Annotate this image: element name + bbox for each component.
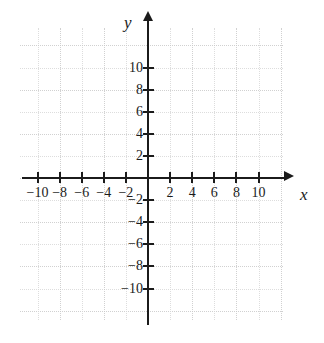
y-axis-line	[147, 14, 149, 325]
x-axis-tick-label: −10	[27, 186, 49, 200]
y-axis-tick-label: 8	[136, 83, 143, 97]
x-axis-tick-label: −4	[96, 186, 111, 200]
x-axis-tick-label: 8	[233, 186, 240, 200]
grid-line-vertical	[281, 28, 282, 320]
x-axis-tick-label: −8	[52, 186, 67, 200]
x-axis-tick-label: 4	[189, 186, 196, 200]
x-axis-tick	[81, 172, 83, 183]
y-axis-label: y	[124, 14, 132, 31]
y-axis-tick-label: 2	[136, 149, 143, 163]
y-axis-tick	[143, 89, 154, 91]
coordinate-plane-figure: −10−8−6−4−2246810108642−2−4−6−8−10 y x	[0, 0, 324, 343]
y-axis-tick-label: −10	[121, 282, 143, 296]
y-axis-tick-label: 10	[129, 61, 143, 75]
y-axis-tick	[143, 221, 154, 223]
y-axis-tick-label: 6	[136, 105, 143, 119]
grid-line-horizontal	[20, 45, 283, 46]
y-axis-tick	[143, 67, 154, 69]
x-axis-tick-label: 6	[211, 186, 218, 200]
x-axis-tick	[191, 172, 193, 183]
y-axis-tick	[143, 243, 154, 245]
y-axis-arrow-icon	[143, 11, 153, 21]
x-axis-tick	[235, 172, 237, 183]
y-axis-tick	[143, 155, 154, 157]
y-axis-tick-label: −6	[128, 237, 143, 251]
x-axis-label: x	[300, 186, 308, 203]
x-axis-tick	[213, 172, 215, 183]
y-axis-tick	[143, 265, 154, 267]
x-axis-arrow-icon	[284, 171, 294, 181]
x-axis-tick	[125, 172, 127, 183]
x-axis-tick-label: 2	[167, 186, 174, 200]
y-axis-tick	[143, 111, 154, 113]
y-axis-tick-label: −4	[128, 215, 143, 229]
x-axis-tick-label: −6	[74, 186, 89, 200]
x-axis-tick	[258, 172, 260, 183]
y-axis-tick-label: −8	[128, 259, 143, 273]
x-axis-line	[22, 177, 285, 179]
y-axis-tick	[143, 199, 154, 201]
x-axis-tick-label: 10	[252, 186, 266, 200]
y-axis-tick-label: −2	[128, 193, 143, 207]
y-axis-tick	[143, 133, 154, 135]
x-axis-tick	[103, 172, 105, 183]
x-axis-tick	[37, 172, 39, 183]
y-axis-tick-label: 4	[136, 127, 143, 141]
x-axis-tick	[169, 172, 171, 183]
y-axis-tick	[143, 288, 154, 290]
x-axis-tick	[59, 172, 61, 183]
grid-line-horizontal	[20, 311, 283, 312]
